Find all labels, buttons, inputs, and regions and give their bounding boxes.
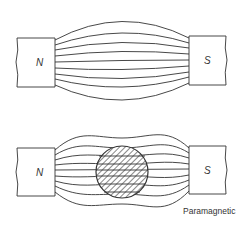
field-lines (55, 21, 189, 100)
south-pole-label: S (204, 165, 211, 176)
north-pole-label: N (36, 57, 43, 68)
north-pole-label: N (36, 167, 43, 178)
bottom-diagram (16, 135, 227, 207)
top-diagram (16, 21, 227, 100)
magnetic-field-diagrams (0, 0, 240, 232)
paramagnetic-sample (96, 146, 148, 198)
south-pole-label: S (204, 55, 211, 66)
paramagnetic-caption: Paramagnetic (183, 206, 235, 216)
